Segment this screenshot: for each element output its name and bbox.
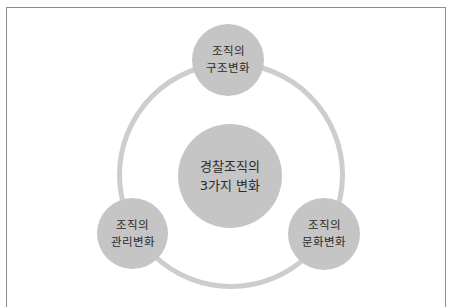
node-bottom-left-line-2: 관리변화 — [111, 234, 155, 251]
center-node-line-2: 3가지 변화 — [200, 176, 260, 196]
node-culture-change: 조직의 문화변화 — [288, 198, 360, 270]
node-structure-change: 조직의 구조변화 — [192, 24, 264, 96]
node-top-line-1: 조직의 — [212, 43, 245, 60]
node-bottom-left-line-1: 조직의 — [116, 217, 149, 234]
center-node: 경찰조직의 3가지 변화 — [178, 124, 282, 228]
node-bottom-right-line-1: 조직의 — [308, 217, 341, 234]
node-bottom-right-line-2: 문화변화 — [302, 234, 346, 251]
node-management-change: 조직의 관리변화 — [97, 198, 168, 269]
center-node-line-1: 경찰조직의 — [200, 157, 260, 177]
node-top-line-2: 구조변화 — [206, 60, 250, 77]
